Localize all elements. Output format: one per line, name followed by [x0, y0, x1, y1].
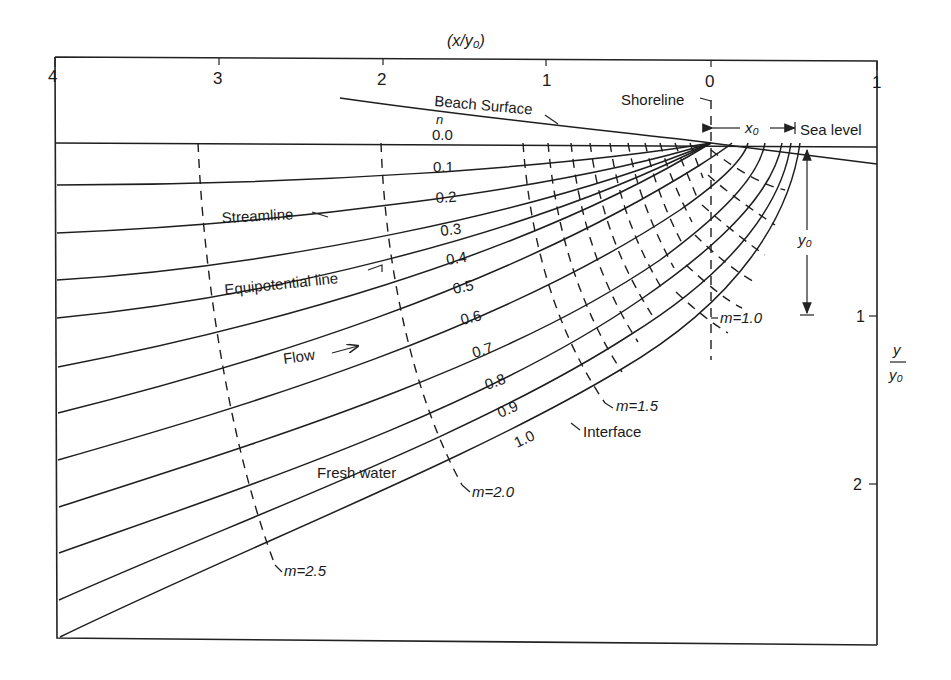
streamline-0.95 — [59, 143, 791, 600]
beach-surface-label: Beach Surface — [434, 92, 534, 118]
streamline-label: 0.6 — [459, 306, 483, 328]
y-axis — [869, 316, 877, 484]
x-tick-label: 2 — [377, 70, 386, 89]
n-symbol: n — [436, 112, 443, 127]
streamline-label: 0.0 — [432, 126, 453, 143]
streamline-label: 0.3 — [439, 220, 462, 239]
x-tick-label: 3 — [213, 69, 222, 88]
streamline-label: 0.7 — [470, 339, 495, 361]
streamline-label: 0.4 — [445, 248, 468, 268]
x-tick-label: 4 — [48, 67, 57, 86]
equipotential-label: m=1.5 — [616, 397, 659, 414]
y-axis-title-numerator: y — [892, 341, 902, 358]
streamline-label: 0.8 — [482, 370, 507, 393]
equipotential-annotation: Equipotential line — [224, 269, 339, 298]
x-tick-label: 1 — [542, 71, 551, 90]
y-axis-title-denominator: y₀ — [888, 366, 903, 383]
streamline-0.9 — [59, 143, 782, 553]
sea-level-label: Sea level — [800, 121, 862, 138]
equipotential-label: m=2.0 — [472, 483, 515, 500]
streamline-0.5 — [58, 143, 711, 367]
streamline-label: 0.1 — [433, 158, 454, 175]
flow-net-figure: 4 3 2 1 0 1 (x/y₀) 1 2 y y₀ Beach Surfac… — [0, 0, 951, 680]
y-tick-label: 2 — [853, 476, 862, 493]
x0-label: x₀ — [744, 119, 759, 136]
streamline-label: 0.9 — [495, 397, 521, 421]
interface-annotation: Interface — [583, 423, 641, 440]
streamline-0.8 — [59, 143, 765, 507]
y0-label: y₀ — [797, 231, 812, 248]
y-tick-label: 1 — [856, 308, 865, 325]
shoreline-label: Shoreline — [621, 91, 684, 108]
x-tick-label: 0 — [705, 72, 714, 91]
streamlines — [57, 143, 800, 637]
streamline-label: 1.0 — [511, 426, 537, 450]
fresh-water-annotation: Fresh water — [317, 464, 396, 481]
beach-surface-line — [340, 98, 877, 164]
streamline-annotation: Streamline — [221, 205, 293, 226]
streamline-1.0-interface — [60, 143, 800, 637]
flow-annotation: Flow — [282, 346, 316, 367]
streamline-label: 0.2 — [435, 188, 457, 206]
sea-level-line — [55, 143, 877, 147]
equipotential-label: m=2.5 — [284, 562, 327, 579]
equipotential-m1.5 — [523, 143, 605, 403]
equipotential-label: m=1.0 — [720, 309, 763, 326]
streamline-label: 0.5 — [451, 276, 475, 297]
x-tick-label: 1 — [872, 73, 881, 92]
streamline-0.4 — [57, 143, 711, 318]
shoreline-marker — [700, 98, 711, 360]
x-axis-title: (x/y₀) — [447, 32, 485, 49]
